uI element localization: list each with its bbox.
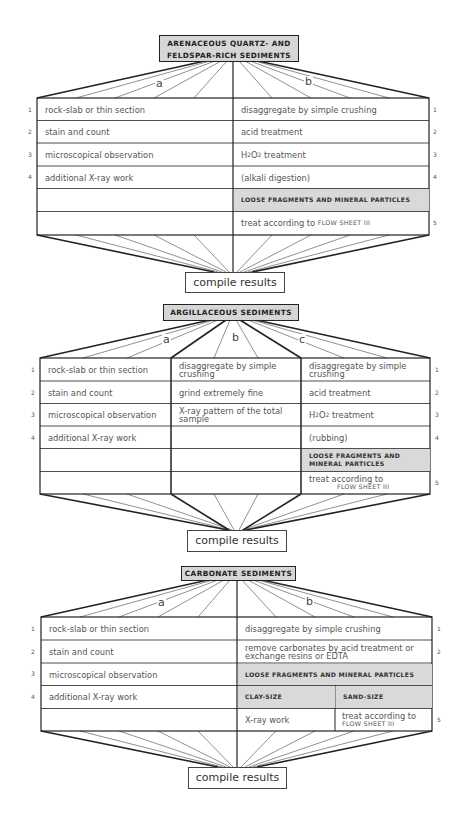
sheet2-c-step1: disaggregate by simple crushing (302, 359, 430, 381)
sheet1-a-step1: rock-slab or thin section (38, 99, 233, 120)
sheet2-b-step3: X-ray pattern of the total sample (172, 404, 301, 426)
row-number: 2 (25, 128, 35, 135)
sheet3-b-xray-work: X-ray work (238, 709, 335, 731)
sheet1-branch-a-label: a (155, 78, 164, 89)
sheet1-title: ARENACEOUS QUARTZ- AND FELDSPAR-RICH SED… (159, 35, 299, 62)
sheet3-a-step2: stain and count (42, 641, 237, 663)
sheet1-b-step1: disaggregate by simple crushing (234, 99, 429, 120)
row-number-right: 5 (434, 716, 444, 723)
sheet1-title-line1: ARENACEOUS QUARTZ- AND (160, 38, 298, 50)
sheet1-b-loose-fragments: LOOSE FRAGMENTS AND MINERAL PARTICLES (234, 189, 429, 211)
row-number: 4 (28, 693, 38, 700)
row-number: 3 (28, 670, 38, 677)
row-number: 1 (28, 366, 38, 373)
sheet2-c-loose-fragments: LOOSE FRAGMENTS AND MINERAL PARTICLES (302, 449, 430, 471)
treat-text: treat according to (309, 475, 383, 483)
sheet2-a-step3: microscopical observation (41, 404, 171, 426)
sheet1-a-step4: additional X-ray work (38, 167, 233, 188)
sheet3-b-loose-fragments: LOOSE FRAGMENTS AND MINERAL PARTICLES (238, 664, 432, 685)
sheet2-c-step4: (rubbing) (302, 427, 430, 448)
row-number: 2 (28, 648, 38, 655)
row-number-right: 3 (430, 151, 440, 158)
flow-sheet-ref: FLOW SHEET III (342, 720, 394, 728)
sheet3-b-clay-size: CLAY-SIZE (238, 686, 335, 708)
sheet2-compile-results: compile results (187, 530, 287, 552)
row-number-right: 2 (434, 648, 444, 655)
sheet3-compile-results: compile results (188, 767, 287, 789)
row-number: 2 (28, 389, 38, 396)
flow-sheet-ref: FLOW SHEET III (318, 219, 370, 227)
row-number-right: 1 (434, 625, 444, 632)
row-number-right: 1 (430, 106, 440, 113)
sheet1-compile-results: compile results (185, 272, 285, 293)
row-number-right: 5 (432, 479, 442, 486)
sheet1-b-step5: treat according to FLOW SHEET III (234, 212, 429, 234)
sheet3-b-sand-size: SAND-SIZE (336, 686, 432, 708)
row-number-right: 5 (430, 219, 440, 226)
sheet1-a-step2: stain and count (38, 121, 233, 143)
treat-text: treat according to (241, 219, 315, 227)
sheet3-a-step1: rock-slab or thin section (42, 618, 237, 640)
row-number: 1 (28, 625, 38, 632)
sheet3-b-step1: disaggregate by simple crushing (238, 618, 432, 640)
sheet2-a-step2: stain and count (41, 382, 171, 403)
sheet2-a-step4: additional X-ray work (41, 427, 171, 448)
row-number-right: 1 (432, 366, 442, 373)
flow-sheet-ref: FLOW SHEET III (337, 483, 389, 491)
sheet2-title: ARGILLACEOUS SEDIMENTS (163, 304, 299, 321)
sheet2-c-step5: treat according to FLOW SHEET III (302, 472, 430, 494)
sheet3-b-step5: treat according to FLOW SHEET III (336, 709, 432, 731)
sheet3-a-step3: microscopical observation (42, 664, 237, 685)
treat-text: treat according to (342, 712, 416, 720)
row-number: 4 (25, 173, 35, 180)
sheet3-b-step2: remove carbonates by acid treatment or e… (238, 641, 432, 663)
sheet3-branch-a-label: a (157, 597, 166, 608)
sheet1-b-step3: H2O2 treatment (234, 144, 429, 166)
sheet2-c-step2: acid treatment (302, 382, 430, 403)
sheet2-b-step2: grind extremely fine (172, 382, 301, 403)
row-number-right: 4 (432, 434, 442, 441)
sheet2-branch-b-label: b (231, 332, 240, 343)
sheet2-b-step1: disaggregate by simple crushing (172, 359, 301, 381)
row-number-right: 3 (432, 411, 442, 418)
row-number: 3 (28, 411, 38, 418)
sheet1-b-step2: acid treatment (234, 121, 429, 143)
row-number-right: 2 (430, 128, 440, 135)
sheet3-branch-b-label: b (305, 596, 314, 607)
row-number: 4 (28, 434, 38, 441)
sheet2-branch-a-label: a (162, 334, 171, 345)
sheet3-a-step4: additional X-ray work (42, 686, 237, 708)
sheet3-title: CARBONATE SEDIMENTS (181, 566, 296, 581)
row-number-right: 2 (432, 389, 442, 396)
sheet2-c-step3: H2O2 treatment (302, 404, 430, 426)
sheet1-branch-b-label: b (304, 76, 313, 87)
sheet1-a-step3: microscopical observation (38, 144, 233, 166)
sheet2-a-step1: rock-slab or thin section (41, 359, 171, 381)
sheet1-title-line2: FELDSPAR-RICH SEDIMENTS (160, 50, 298, 62)
sheet1-b-step4: (alkali digestion) (234, 167, 429, 188)
sheet2-branch-c-label: c (298, 334, 306, 345)
row-number: 3 (25, 151, 35, 158)
row-number: 1 (25, 106, 35, 113)
row-number-right: 4 (430, 173, 440, 180)
